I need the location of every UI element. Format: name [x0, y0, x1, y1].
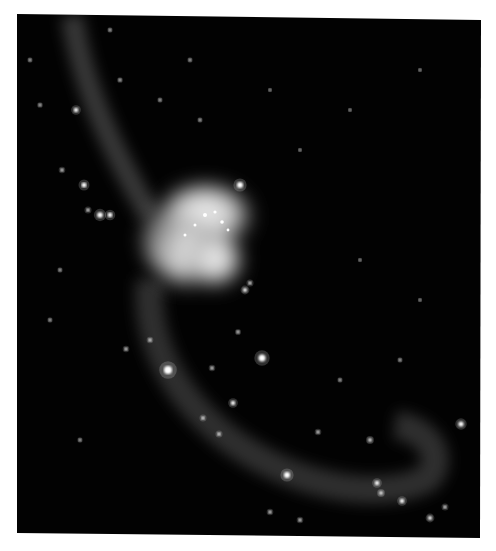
- star: [164, 366, 172, 374]
- star: [248, 281, 251, 284]
- star: [379, 491, 383, 495]
- galaxy-photo: [0, 0, 496, 551]
- star: [400, 499, 404, 503]
- star: [82, 183, 87, 188]
- star: [349, 109, 351, 111]
- star: [149, 339, 152, 342]
- star: [119, 79, 122, 82]
- star: [237, 331, 240, 334]
- star: [59, 269, 61, 271]
- star: [419, 299, 421, 301]
- star: [109, 29, 111, 31]
- star: [339, 379, 341, 381]
- star: [211, 367, 214, 370]
- star: [201, 416, 204, 419]
- star: [237, 182, 243, 188]
- star: [79, 439, 81, 441]
- star: [199, 119, 201, 121]
- star: [259, 355, 266, 362]
- star: [284, 472, 290, 478]
- star: [428, 516, 432, 520]
- star: [39, 104, 42, 107]
- star: [108, 213, 113, 218]
- star: [231, 401, 235, 405]
- star: [243, 288, 247, 292]
- star: [97, 212, 103, 218]
- star: [86, 208, 89, 211]
- star: [61, 169, 64, 172]
- star: [269, 89, 271, 91]
- star: [189, 59, 191, 61]
- star: [368, 438, 372, 442]
- star: [419, 69, 421, 71]
- star: [443, 505, 446, 508]
- star: [375, 481, 379, 485]
- star: [125, 348, 128, 351]
- star: [399, 359, 401, 361]
- star: [458, 421, 463, 426]
- star: [317, 431, 320, 434]
- star: [74, 108, 78, 112]
- star: [159, 99, 161, 101]
- star: [217, 432, 220, 435]
- star: [299, 149, 301, 151]
- star: [299, 519, 302, 522]
- star: [269, 511, 272, 514]
- star: [49, 319, 51, 321]
- star: [359, 259, 361, 261]
- star: [29, 59, 31, 61]
